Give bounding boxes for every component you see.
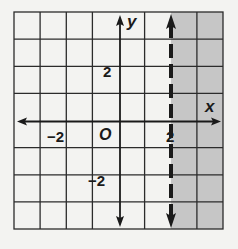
y-tick-label-neg2: −2 [88, 172, 105, 189]
inequality-graph: y x O −2 2 2 −2 [0, 0, 238, 249]
x-tick-label-neg2: −2 [47, 128, 64, 145]
y-tick-label-2: 2 [103, 63, 111, 80]
origin-label: O [99, 126, 112, 143]
y-axis-label: y [126, 12, 138, 31]
x-axis-label: x [204, 97, 216, 116]
x-tick-label-2: 2 [166, 128, 174, 145]
